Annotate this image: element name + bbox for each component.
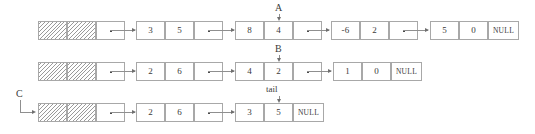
row1-node5-cell1: 5 [430, 21, 459, 40]
row2-node2-cell2: 6 [165, 62, 194, 81]
row2-link3-arrowhead [328, 69, 332, 73]
row1-link3-arrowhead [326, 28, 330, 32]
row2-node3-cell2: 2 [264, 62, 293, 81]
row1-node4-cell1: -6 [331, 21, 360, 40]
row3-node2-cell2: 6 [165, 103, 194, 122]
label-A: A [275, 3, 282, 13]
row3-node3-cell1: 3 [235, 103, 264, 122]
row1-link4-arrowhead [425, 28, 429, 32]
row1-node3-cell2: 4 [264, 21, 293, 40]
row3-node2-cell1: 2 [136, 103, 165, 122]
row2-node4-cell3-null: NULL [391, 62, 422, 81]
row2-node2-cell1: 2 [136, 62, 165, 81]
row1-node3-cell1: 8 [235, 21, 264, 40]
row2-node4-cell1: 1 [333, 62, 362, 81]
row1-node2-cell1: 3 [136, 21, 165, 40]
row2-node4-cell2: 0 [362, 62, 391, 81]
row2-node1-cell2 [67, 62, 96, 81]
label-tail: tail [266, 85, 278, 94]
row1-node5-cell2: 0 [459, 21, 488, 40]
label-B: B [275, 44, 282, 54]
diagram-canvas: 3 5 8 4 -6 2 5 0 NULL A B 2 6 4 2 1 0 NU… [0, 0, 535, 134]
row2-node3-cell1: 4 [235, 62, 264, 81]
row1-node1-cell1 [38, 21, 67, 40]
row3-node1-cell1 [38, 103, 67, 122]
row3-node3-cell3-null: NULL [293, 103, 324, 122]
label-C-arrowhead [32, 110, 36, 114]
label-C: C [16, 89, 23, 99]
row3-node1-cell2 [67, 103, 96, 122]
row1-node2-cell2: 5 [165, 21, 194, 40]
label-A-arrowhead [277, 17, 281, 21]
row1-node5-cell3-null: NULL [488, 21, 519, 40]
row2-node1-cell1 [38, 62, 67, 81]
row1-node1-cell2 [67, 21, 96, 40]
row1-node4-cell2: 2 [360, 21, 389, 40]
row3-node3-cell2: 5 [264, 103, 293, 122]
